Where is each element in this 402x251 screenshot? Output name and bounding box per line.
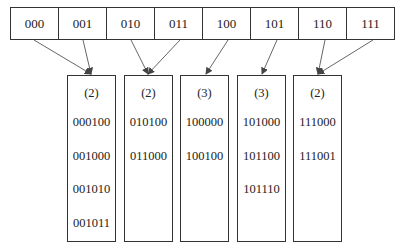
bucket-key: 010100 (125, 106, 172, 140)
bucket-key: 101100 (238, 140, 285, 174)
bucket-key: 101000 (238, 106, 285, 140)
bucket: (2) 010100 011000 (124, 75, 173, 242)
local-depth: (3) (238, 86, 285, 106)
local-depth: (2) (68, 86, 115, 106)
bucket-key: 100100 (181, 140, 228, 174)
bucket-key: 011000 (125, 140, 172, 174)
bucket: (3) 101000 101100 101110 (237, 75, 286, 242)
bucket: (2) 111000 111001 (293, 75, 342, 242)
bucket-key: 000100 (68, 106, 115, 140)
local-depth: (2) (125, 86, 172, 106)
bucket-key: 111000 (294, 106, 341, 140)
bucket-key: 111001 (294, 140, 341, 174)
bucket-key: 001000 (68, 140, 115, 174)
bucket: (2) 000100 001000 001010 001011 (67, 75, 116, 242)
bucket: (3) 100000 100100 (180, 75, 229, 242)
bucket-key: 101110 (238, 173, 285, 207)
bucket-key: 001010 (68, 173, 115, 207)
bucket-key: 100000 (181, 106, 228, 140)
local-depth: (2) (294, 86, 341, 106)
bucket-key: 001011 (68, 207, 115, 241)
local-depth: (3) (181, 86, 228, 106)
